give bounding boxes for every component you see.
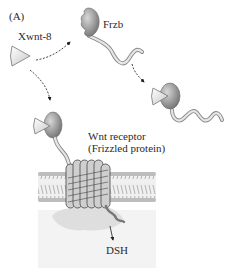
arrow-frzb-binding (132, 64, 144, 82)
dsh-label: DSH (106, 244, 128, 256)
wnt-receptor-head-icon (34, 112, 73, 172)
arrow-to-receptor (30, 70, 50, 100)
frzb-xwnt8-complex-icon (152, 83, 223, 120)
receptor-shadow (52, 206, 124, 231)
panel-label: (A) (9, 10, 24, 22)
receptor-label-line1: Wnt receptor (88, 130, 146, 142)
xwnt8-label: Xwnt-8 (18, 30, 52, 42)
receptor-label-line2: (Frizzled protein) (88, 142, 165, 154)
arrow-to-frzb (36, 42, 70, 60)
frzb-label: Frzb (103, 18, 123, 30)
frzb-protein-icon (81, 8, 142, 63)
xwnt8-ligand-icon (11, 46, 31, 66)
